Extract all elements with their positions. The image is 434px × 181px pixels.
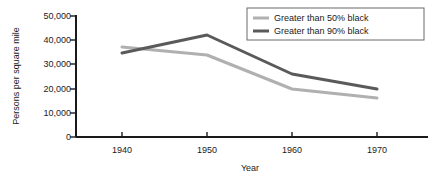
y-tick-label: 20,000 bbox=[43, 84, 71, 94]
chart-legend: Greater than 50% black Greater than 90% … bbox=[247, 8, 424, 40]
line-chart: Persons per square mile 50,000 40,000 30… bbox=[0, 0, 434, 181]
chart-container: Persons per square mile 50,000 40,000 30… bbox=[0, 0, 434, 181]
x-axis-title: Year bbox=[241, 163, 259, 173]
x-tick-label: 1950 bbox=[197, 145, 217, 155]
y-tick-label: 50,000 bbox=[43, 11, 71, 21]
y-axis-title: Persons per square mile bbox=[11, 27, 21, 125]
x-tick-label: 1970 bbox=[367, 145, 387, 155]
series-line-greater-than-90-percent bbox=[122, 35, 377, 89]
legend-label-greater-than-50-percent: Greater than 50% black bbox=[274, 13, 369, 23]
y-tick-label: 30,000 bbox=[43, 59, 71, 69]
x-tick-label: 1940 bbox=[112, 145, 132, 155]
x-tick-labels: 1940 1950 1960 1970 bbox=[112, 145, 387, 155]
y-tick-label: 10,000 bbox=[43, 108, 71, 118]
y-tick-label: 40,000 bbox=[43, 35, 71, 45]
legend-label-greater-than-90-percent: Greater than 90% black bbox=[274, 26, 369, 36]
y-tick-labels: 50,000 40,000 30,000 20,000 10,000 0 bbox=[43, 11, 71, 142]
x-tick-label: 1960 bbox=[282, 145, 302, 155]
